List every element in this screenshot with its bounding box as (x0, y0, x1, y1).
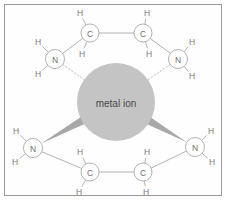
bond-C4-N4 (151, 151, 186, 168)
hydrogen-label-h13: H (144, 147, 150, 157)
atom-c4: C (134, 163, 152, 181)
hydrogen-label-h11: H (77, 147, 83, 157)
hydrogen-label-h15: H (208, 126, 214, 136)
atom-label-c1: C (87, 29, 93, 39)
atom-label-n1: N (52, 55, 58, 65)
bond-C1-H3 (83, 18, 86, 25)
atom-c1: C (81, 24, 99, 42)
atom-n1: N (46, 50, 65, 69)
hydrogen-label-h1: H (35, 37, 41, 47)
hydrogen-label-h9: H (13, 126, 19, 136)
bond-N4-H16 (202, 153, 207, 158)
bond-N3-H10 (20, 154, 26, 158)
atom-n3: N (24, 139, 43, 158)
hydrogen-label-h5: H (144, 8, 150, 18)
hydrogen-label-h16: H (209, 157, 215, 167)
hydrogen-label-h12: H (76, 187, 82, 197)
metal-ion-label: metal ion (96, 98, 137, 109)
atom-label-c4: C (140, 168, 146, 178)
metal-ion-group: metal ion (77, 63, 155, 141)
bond-N4-H15 (202, 135, 207, 140)
hydrogen-label-h3: H (77, 8, 83, 18)
atom-c3: C (81, 163, 99, 181)
hydrogen-label-h6: H (146, 49, 152, 59)
bond-N2-H7 (184, 47, 188, 52)
bond-C2-H5 (145, 19, 146, 24)
hydrogen-label-h7: H (189, 37, 195, 47)
atom-n4: N (186, 138, 205, 157)
atom-label-n3: N (30, 144, 36, 154)
figure-canvas: metal ion NCCNNCCN HHHHHHHHHHHHHHHH (0, 0, 228, 204)
bond-C3-H11 (83, 157, 86, 164)
atom-label-n4: N (192, 143, 198, 153)
atom-label-n2: N (175, 55, 181, 65)
bond-C1-H4 (84, 41, 87, 48)
bond-N3-C3 (42, 152, 82, 169)
bond-C4-H13 (145, 158, 146, 163)
hydrogen-label-h8: H (189, 71, 195, 81)
bond-N3-H9 (20, 135, 26, 141)
atom-label-c2: C (140, 29, 146, 39)
bond-C2-N2 (150, 38, 170, 53)
bond-N2-H8 (184, 66, 188, 71)
hydrogen-label-h14: H (143, 187, 149, 197)
bond-N1-H1 (42, 46, 48, 52)
hydrogen-label-h2: H (35, 69, 41, 79)
bond-N1-H2 (42, 65, 47, 70)
hydrogen-label-h10: H (12, 157, 18, 167)
atom-label-c3: C (87, 168, 93, 178)
bond-C2-H6 (145, 42, 147, 49)
bond-C3-H12 (82, 180, 86, 187)
hydrogen-label-h4: H (79, 49, 85, 59)
structure-diagram: metal ion NCCNNCCN HHHHHHHHHHHHHHHH (0, 0, 228, 204)
atom-c2: C (134, 24, 152, 42)
atom-n2: N (169, 50, 188, 69)
bond-C4-H14 (144, 181, 145, 186)
